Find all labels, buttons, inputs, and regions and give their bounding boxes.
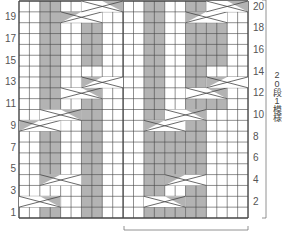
repeat-label: 20段1模様 <box>272 70 284 121</box>
row-number: 15 <box>4 56 16 66</box>
row-number: 6 <box>253 153 267 163</box>
row-number: 10 <box>253 110 267 120</box>
row-number: 16 <box>253 45 267 55</box>
row-number: 17 <box>4 34 16 44</box>
row-number: 8 <box>253 132 267 142</box>
row-number: 7 <box>4 143 16 153</box>
row-number: 2 <box>253 197 267 207</box>
row-number: 1 <box>4 208 16 218</box>
row-number: 18 <box>253 23 267 33</box>
row-number: 11 <box>4 99 16 109</box>
knitting-chart <box>0 0 288 235</box>
row-number: 3 <box>4 186 16 196</box>
row-number: 5 <box>4 164 16 174</box>
row-number: 4 <box>253 175 267 185</box>
row-number: 19 <box>4 12 16 22</box>
row-number: 14 <box>253 67 267 77</box>
row-number: 13 <box>4 77 16 87</box>
row-number: 12 <box>253 88 267 98</box>
row-number: 20 <box>253 2 267 12</box>
row-number: 9 <box>4 121 16 131</box>
